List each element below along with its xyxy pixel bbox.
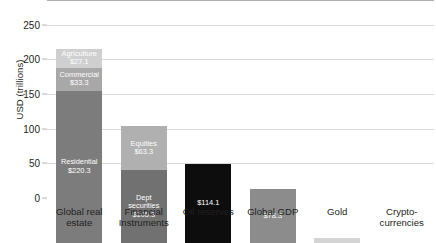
- x-axis-label: Oil reserves: [176, 206, 241, 217]
- bar-value-label: $63.3: [135, 148, 154, 156]
- y-axis-tick-label: 0: [0, 193, 40, 204]
- bar-segment[interactable]: Agriculture$27.1: [56, 49, 102, 68]
- x-axis-label: Global GDP: [241, 206, 306, 217]
- bar-segment-label: Residential: [61, 158, 98, 166]
- x-axis-label-line: Oil reserves: [176, 206, 241, 217]
- bar-segment-label: Agriculture: [62, 50, 97, 58]
- y-axis-tick-label: 100: [0, 123, 40, 134]
- x-axis-label: FinancialInstruments: [112, 206, 177, 229]
- bar-segment[interactable]: $114.1: [185, 164, 231, 243]
- bar-value-label: $27.1: [70, 58, 89, 66]
- bar-segment[interactable]: Commercial$33.3: [56, 68, 102, 91]
- x-axis-label-line: Gold: [305, 206, 370, 217]
- bar-segment[interactable]: Equities$63.3: [121, 126, 167, 170]
- bar-segment-label: Commercial: [60, 71, 99, 79]
- x-axis-label-line: Instruments: [112, 217, 177, 228]
- bar-segment-label: Equities: [131, 140, 157, 148]
- bar-value-label: $220.3: [68, 167, 91, 175]
- y-axis-tick-label: 50: [0, 158, 40, 169]
- x-axis-label: Global realestate: [47, 206, 112, 229]
- x-axis-label-line: Global real: [47, 206, 112, 217]
- bar-segment[interactable]: $7.6: [314, 238, 360, 243]
- x-axis-label-line: currencies: [370, 217, 435, 228]
- bar-chart: USD (trillions) 050100150200250 Agricult…: [0, 0, 436, 243]
- x-axis-label-line: Crypto-: [370, 206, 435, 217]
- y-axis-tick-label: 200: [0, 54, 40, 65]
- x-axis-label: Gold: [305, 206, 370, 217]
- y-axis-tick-label: 150: [0, 89, 40, 100]
- x-axis-label: Crypto-currencies: [370, 206, 435, 229]
- x-axis-label-line: Global GDP: [241, 206, 306, 217]
- bar-segment-label: Dept: [136, 194, 152, 202]
- x-axis-label-line: Financial: [112, 206, 177, 217]
- x-axis-label-line: estate: [47, 217, 112, 228]
- bar-value-label: $33.3: [70, 79, 89, 87]
- y-axis-tick-label: 250: [0, 19, 40, 30]
